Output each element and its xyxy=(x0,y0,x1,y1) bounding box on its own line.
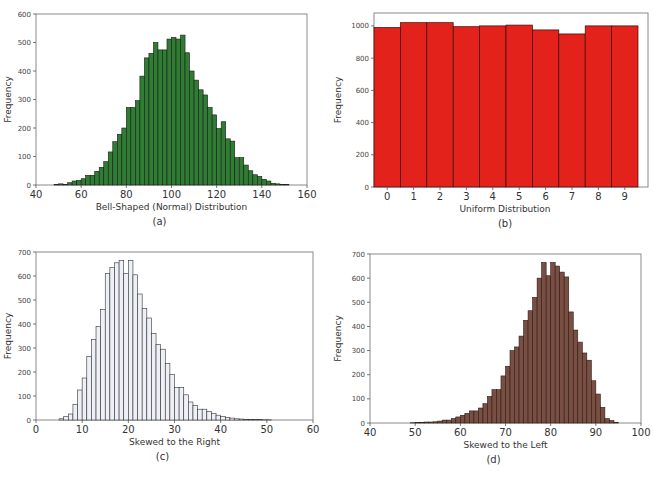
x-tick-label: 80 xyxy=(544,427,557,438)
histogram-bar xyxy=(104,162,109,185)
histogram-bar xyxy=(612,26,638,187)
histogram-bar xyxy=(198,409,203,420)
histogram-bar xyxy=(427,23,453,187)
histogram-bar xyxy=(179,388,184,420)
y-tick-label: 500 xyxy=(352,299,365,307)
histogram-bar xyxy=(181,35,186,185)
y-tick-label: 200 xyxy=(356,151,369,159)
histogram-bar xyxy=(429,422,434,423)
histogram-bar xyxy=(551,262,556,423)
histogram-bar xyxy=(208,107,213,185)
y-tick-label: 300 xyxy=(352,347,365,355)
histogram-bar xyxy=(605,419,610,423)
y-axis-label: Frequency xyxy=(3,76,13,123)
histogram-bar xyxy=(108,152,113,185)
histogram-bar xyxy=(510,351,515,423)
histogram-bar xyxy=(542,262,547,423)
x-tick-label: 10 xyxy=(76,424,89,435)
histogram-bar xyxy=(151,334,156,420)
histogram-bar xyxy=(162,50,167,185)
histogram-bar xyxy=(235,158,240,185)
y-tick-label: 1000 xyxy=(351,22,369,30)
histogram-bar xyxy=(138,294,143,420)
y-tick-label: 200 xyxy=(18,125,31,133)
histogram-bar xyxy=(140,76,145,185)
histogram-bar xyxy=(451,419,456,423)
y-tick-label: 600 xyxy=(352,275,365,283)
histogram-bar xyxy=(170,374,175,420)
x-tick-label: 20 xyxy=(122,424,135,435)
histogram-bar xyxy=(230,418,235,420)
histogram-bar xyxy=(235,419,240,420)
y-tick-label: 300 xyxy=(18,345,31,353)
y-tick-label: 100 xyxy=(18,153,31,161)
histogram-bar xyxy=(578,342,583,423)
x-axis-label: Skewed to the Right xyxy=(129,437,220,447)
histogram-bar xyxy=(149,53,154,185)
bars xyxy=(59,260,271,420)
chart-caption: (b) xyxy=(498,218,512,229)
histogram-bar xyxy=(147,318,152,420)
y-tick-label: 0 xyxy=(365,184,369,192)
histogram-bar xyxy=(82,378,87,420)
histogram-bar xyxy=(99,167,104,185)
histogram-bar xyxy=(280,184,285,185)
x-axis-label: Skewed to the Left xyxy=(463,440,548,450)
histogram-bar xyxy=(537,278,542,423)
histogram-bar xyxy=(135,101,140,185)
histogram-bar xyxy=(113,142,118,185)
x-tick-label: 30 xyxy=(168,424,181,435)
x-tick-label: 3 xyxy=(463,191,469,202)
histogram-bar xyxy=(167,39,172,185)
histogram-bar xyxy=(161,349,166,420)
histogram-bar xyxy=(465,413,470,423)
histogram-bar xyxy=(158,50,163,185)
histogram-bar xyxy=(533,297,538,423)
histogram-bar xyxy=(90,175,95,185)
histogram-bar xyxy=(78,390,83,420)
histogram-bar xyxy=(478,408,483,423)
histogram-bar xyxy=(564,277,569,423)
y-tick-label: 600 xyxy=(18,11,31,19)
x-tick-label: 60 xyxy=(75,189,88,200)
histogram-bar xyxy=(59,419,64,420)
histogram-bar xyxy=(587,360,592,423)
histogram-bar xyxy=(81,179,86,185)
histogram-bar xyxy=(244,419,249,420)
histogram-bar xyxy=(54,184,59,185)
x-tick-label: 6 xyxy=(542,191,548,202)
x-axis-label: Bell-Shaped (Normal) Distribution xyxy=(96,202,248,212)
histogram-bar xyxy=(559,34,585,187)
x-tick-label: 160 xyxy=(297,189,316,200)
histogram-bar xyxy=(63,184,68,185)
x-tick-label: 60 xyxy=(307,424,320,435)
histogram-bar xyxy=(199,90,204,185)
histogram-bar xyxy=(72,181,77,185)
x-tick-label: 40 xyxy=(214,424,227,435)
histogram-bar xyxy=(114,263,119,420)
histogram-bar xyxy=(194,80,199,185)
histogram-bar xyxy=(87,356,92,420)
x-tick-label: 120 xyxy=(207,189,226,200)
chart-c: Frequency0100200300400500600700010203040… xyxy=(0,240,330,477)
y-tick-label: 400 xyxy=(356,119,369,127)
histogram-bar xyxy=(105,274,110,420)
histogram-bar xyxy=(202,409,207,420)
histogram-bar xyxy=(582,353,587,423)
histogram-bar xyxy=(73,404,78,420)
y-tick-label: 300 xyxy=(18,96,31,104)
histogram-bar xyxy=(165,364,170,420)
histogram-uniform: Frequency012345678902004006008001000Unif… xyxy=(330,0,653,235)
histogram-bar xyxy=(275,184,280,185)
histogram-bar xyxy=(110,268,115,420)
histogram-bar xyxy=(131,107,136,185)
histogram-bar xyxy=(193,406,198,420)
y-tick-label: 100 xyxy=(18,393,31,401)
histogram-bar xyxy=(153,43,158,186)
histogram-bar xyxy=(262,179,267,185)
y-tick-label: 0 xyxy=(27,417,31,425)
histogram-bar xyxy=(487,396,492,423)
x-tick-label: 5 xyxy=(516,191,522,202)
y-tick-label: 700 xyxy=(352,251,365,259)
histogram-bar xyxy=(184,395,189,420)
